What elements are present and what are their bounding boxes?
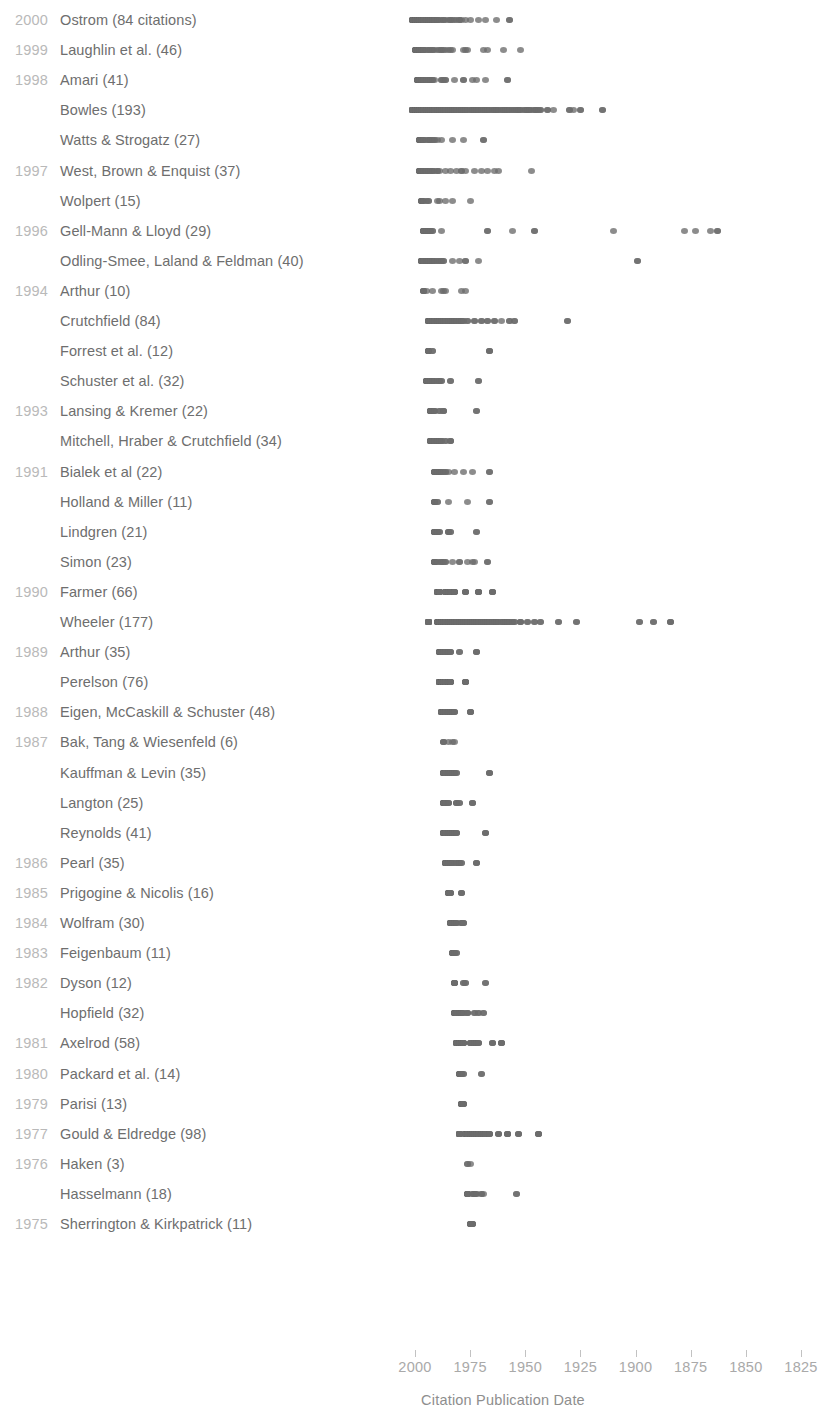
citation-dot (462, 679, 469, 685)
row-dot-strip (0, 788, 826, 818)
citation-dot (460, 469, 467, 475)
chart-row: Bowles (193) (0, 95, 826, 125)
chart-row: Kauffman & Levin (35) (0, 758, 826, 788)
citation-dot (442, 77, 449, 83)
citation-dot (513, 1191, 520, 1197)
citation-dot (550, 107, 557, 113)
row-dot-strip (0, 998, 826, 1028)
citation-dot (471, 318, 478, 324)
citation-dot (438, 137, 445, 143)
citation-dot (495, 168, 502, 174)
citation-dot (634, 258, 641, 264)
chart-row: Crutchfield (84) (0, 306, 826, 336)
citation-dot (524, 619, 531, 625)
chart-row: Reynolds (41) (0, 818, 826, 848)
chart-row: Forrest et al. (12) (0, 336, 826, 366)
row-dot-strip (0, 426, 826, 456)
citation-dot (478, 1071, 485, 1077)
x-axis-tick-label: 1850 (729, 1359, 762, 1375)
chart-row: Perelson (76) (0, 667, 826, 697)
citation-dot (447, 529, 454, 535)
chart-row: Odling-Smee, Laland & Feldman (40) (0, 246, 826, 276)
citation-dot (500, 47, 507, 53)
x-axis-title: Citation Publication Date (0, 1392, 826, 1408)
citation-dot (445, 499, 452, 505)
citation-dot (482, 980, 489, 986)
citation-dot (460, 77, 467, 83)
citation-dot (453, 830, 460, 836)
citation-dot (460, 1101, 467, 1107)
chart-row: 1981Axelrod (58) (0, 1028, 826, 1058)
citation-dot (473, 649, 480, 655)
chart-row: Lindgren (21) (0, 517, 826, 547)
row-dot-strip (0, 667, 826, 697)
citation-dot (453, 950, 460, 956)
citation-dot (473, 860, 480, 866)
citation-dot (447, 890, 454, 896)
chart-row: 1980Packard et al. (14) (0, 1059, 826, 1089)
citation-dot (484, 47, 491, 53)
citation-dot (515, 1131, 522, 1137)
row-dot-strip (0, 5, 826, 35)
citation-dot (469, 800, 476, 806)
citation-dot (714, 228, 721, 234)
citation-dot (475, 589, 482, 595)
citation-dot (489, 589, 496, 595)
x-axis-tick (691, 1350, 692, 1357)
citation-dot (447, 438, 454, 444)
citation-dot (482, 830, 489, 836)
citation-dot (486, 348, 493, 354)
citation-dot (504, 77, 511, 83)
citation-dot (451, 469, 458, 475)
citation-dot (449, 258, 456, 264)
citation-dot (429, 228, 436, 234)
citation-dot (681, 228, 688, 234)
citation-dot (517, 47, 524, 53)
citation-dot (449, 559, 456, 565)
citation-dot (451, 739, 458, 745)
citation-dot (564, 318, 571, 324)
citation-dot (451, 709, 458, 715)
citation-dot (498, 1040, 505, 1046)
row-dot-strip (0, 396, 826, 426)
citation-dot (447, 679, 454, 685)
citation-dot (484, 228, 491, 234)
citation-dot (456, 800, 463, 806)
citation-dot (489, 1040, 496, 1046)
citation-dot (471, 559, 478, 565)
citation-dot (425, 619, 432, 625)
citation-dot (486, 1131, 493, 1137)
chart-row: 2000Ostrom (84 citations) (0, 5, 826, 35)
chart-row: 1985Prigogine & Nicolis (16) (0, 878, 826, 908)
x-axis-tick-label: 1900 (619, 1359, 652, 1375)
citation-dot (451, 77, 458, 83)
row-dot-strip (0, 35, 826, 65)
row-dot-strip (0, 336, 826, 366)
x-axis-tick-label: 1925 (564, 1359, 597, 1375)
citation-dot (467, 709, 474, 715)
x-axis-tick (415, 1350, 416, 1357)
chart-row: Watts & Strogatz (27) (0, 125, 826, 155)
citation-dot (509, 228, 516, 234)
row-dot-strip (0, 1028, 826, 1058)
citation-dot (447, 378, 454, 384)
row-dot-strip (0, 276, 826, 306)
row-dot-strip (0, 366, 826, 396)
chart-row: 1979Parisi (13) (0, 1089, 826, 1119)
x-axis-tick (636, 1350, 637, 1357)
citation-dot (445, 800, 452, 806)
citation-dot (535, 1131, 542, 1137)
citation-dot (484, 559, 491, 565)
row-dot-strip (0, 968, 826, 998)
citation-dot (467, 17, 474, 23)
citation-dot (504, 1131, 511, 1137)
row-dot-strip (0, 95, 826, 125)
row-dot-strip (0, 878, 826, 908)
x-axis: 20001975195019251900187518501825 Citatio… (0, 1350, 826, 1427)
row-dot-strip (0, 517, 826, 547)
citation-dot (491, 318, 498, 324)
x-axis-tick-label: 1950 (509, 1359, 542, 1375)
x-axis-tick-label: 1825 (784, 1359, 817, 1375)
citation-dot (636, 619, 643, 625)
chart-row: 1990Farmer (66) (0, 577, 826, 607)
